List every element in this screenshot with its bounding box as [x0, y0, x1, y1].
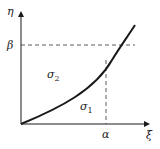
x-axis-label: ξ — [146, 129, 153, 142]
sigma2-label: σ2 — [47, 68, 60, 83]
sigma1-label: σ1 — [80, 100, 93, 115]
beta-label: β — [6, 39, 13, 52]
alpha-label: α — [102, 128, 110, 141]
curve — [21, 25, 135, 124]
y-axis-label: η — [7, 5, 14, 18]
diagram: η ξ β α σ2 σ1 — [0, 0, 160, 149]
